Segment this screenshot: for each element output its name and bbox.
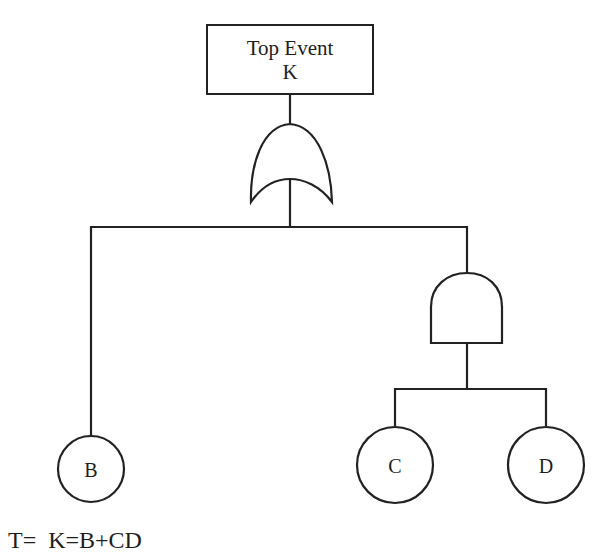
- top-event-title: Top Event: [247, 36, 334, 60]
- or-gate-icon: [251, 124, 332, 202]
- boolean-expression-caption: T= K=B+CD: [8, 527, 142, 552]
- top-event-symbol: K: [282, 60, 297, 84]
- basic-event-c-label: C: [388, 455, 401, 478]
- and-gate-icon: [431, 273, 502, 343]
- top-event-box: Top Event K: [206, 24, 374, 95]
- basic-event-d-label: D: [539, 455, 553, 478]
- basic-event-b-label: B: [84, 459, 97, 482]
